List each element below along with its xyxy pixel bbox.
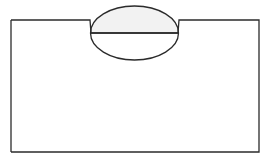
notched-block-lens-figure (0, 0, 270, 162)
figure-container (0, 0, 270, 162)
